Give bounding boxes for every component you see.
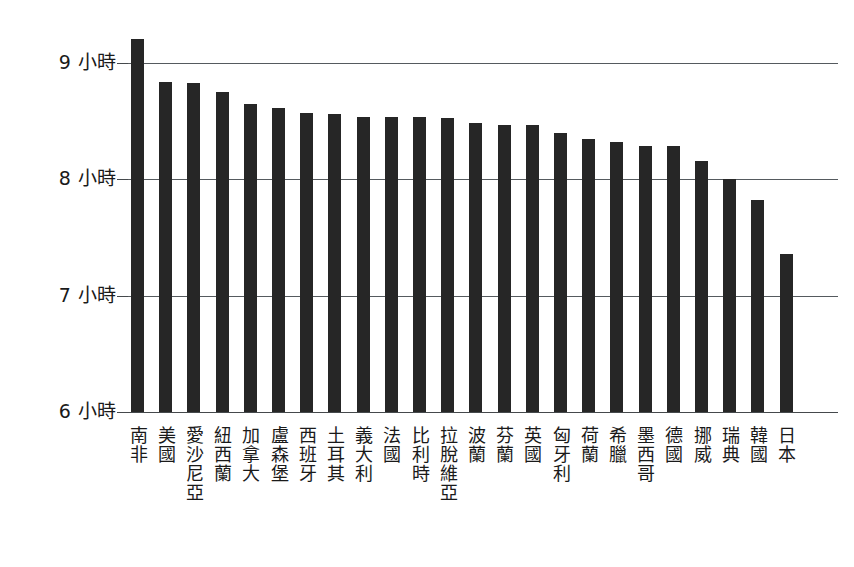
- bar-chart-figure: 6 小時7 小時8 小時9 小時 南非美國愛沙尼亞紐西蘭加拿大盧森堡西班牙土耳其…: [0, 0, 854, 567]
- bar: [780, 254, 793, 412]
- x-axis-category-label: 法國: [380, 426, 402, 464]
- x-axis-category-label: 西班牙: [296, 426, 318, 483]
- bar: [695, 161, 708, 412]
- x-axis-category-label: 挪威: [691, 426, 713, 464]
- bar: [159, 82, 172, 412]
- bar: [300, 113, 313, 412]
- x-axis-category-label: 瑞典: [719, 426, 741, 464]
- bar: [667, 146, 680, 412]
- y-tick-8h: [117, 179, 128, 180]
- y-axis-label-8h: 8 小時: [13, 169, 117, 188]
- x-axis-category-label: 荷蘭: [578, 426, 600, 464]
- x-axis-category-label: 希臘: [606, 426, 628, 464]
- x-axis-category-label: 波蘭: [465, 426, 487, 464]
- bar: [498, 125, 511, 412]
- bar: [413, 117, 426, 412]
- bar: [526, 125, 539, 412]
- x-axis-category-label: 加拿大: [239, 426, 261, 483]
- gridline-6h: [128, 412, 838, 413]
- plot-area: [128, 20, 838, 412]
- bar: [723, 179, 736, 412]
- bar: [328, 114, 341, 412]
- x-axis-category-label: 義大利: [352, 426, 374, 483]
- x-axis-category-label: 南非: [127, 426, 149, 464]
- x-axis-category-label: 盧森堡: [268, 426, 290, 483]
- x-axis-category-label: 紐西蘭: [211, 426, 233, 483]
- bar: [751, 200, 764, 412]
- y-axis-label-6h: 6 小時: [13, 402, 117, 421]
- bar: [357, 117, 370, 412]
- bar: [187, 83, 200, 412]
- bar: [272, 108, 285, 412]
- y-tick-9h: [117, 63, 128, 64]
- x-axis-category-label: 德國: [662, 426, 684, 464]
- bar: [385, 117, 398, 412]
- x-axis-category-label: 拉脫維亞: [437, 426, 459, 502]
- y-tick-6h: [117, 412, 128, 413]
- bar: [610, 142, 623, 412]
- bar: [639, 146, 652, 412]
- x-axis-category-label: 日本: [775, 426, 797, 464]
- x-axis-category-label: 英國: [521, 426, 543, 464]
- y-tick-7h: [117, 296, 128, 297]
- bar: [469, 123, 482, 412]
- y-axis-label-7h: 7 小時: [13, 286, 117, 305]
- x-axis-category-label: 土耳其: [324, 426, 346, 483]
- y-axis-label-9h: 9 小時: [13, 53, 117, 72]
- x-axis-category-label: 墨西哥: [634, 426, 656, 483]
- x-axis-category-label: 匈牙利: [550, 426, 572, 483]
- gridline-9h: [128, 63, 838, 64]
- bar: [441, 118, 454, 412]
- bar: [554, 133, 567, 412]
- y-axis: 6 小時7 小時8 小時9 小時: [0, 20, 117, 412]
- x-axis-category-label: 芬蘭: [493, 426, 515, 464]
- bar: [216, 92, 229, 412]
- x-axis-category-label: 美國: [155, 426, 177, 464]
- x-axis-category-label: 愛沙尼亞: [183, 426, 205, 502]
- bar: [582, 139, 595, 412]
- bar: [244, 104, 257, 412]
- x-axis-category-label: 韓國: [747, 426, 769, 464]
- x-axis-category-label: 比利時: [409, 426, 431, 483]
- x-axis-category-labels: 南非美國愛沙尼亞紐西蘭加拿大盧森堡西班牙土耳其義大利法國比利時拉脫維亞波蘭芬蘭英…: [128, 426, 838, 566]
- bar: [131, 39, 144, 412]
